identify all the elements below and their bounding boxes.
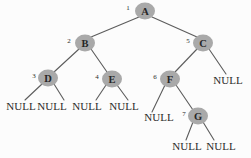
null-d-left: NULL [6,100,36,112]
null-e-right: NULL [109,100,139,112]
tree-edge-b-to-e [91,49,107,72]
node-index-c: 5 [186,37,190,45]
tree-edge-b-to-d [54,49,79,72]
tree-edge-d-to-null-d-left [25,84,42,100]
node-label-b: B [81,38,88,49]
node-index-b: 2 [67,37,71,45]
null-leaves-group: NULLNULLNULLNULLNULLNULLNULLNULL [6,74,243,152]
null-f-left: NULL [144,111,174,123]
node-label-e: E [108,74,115,85]
null-g-left: NULL [172,140,202,152]
node-index-a: 1 [126,4,130,12]
null-g-right: NULL [206,140,236,152]
node-label-a: A [141,6,149,17]
tree-edge-a-to-b [91,17,139,37]
null-e-left: NULL [72,100,102,112]
tree-edge-e-to-null-e-left [96,85,106,100]
node-index-e: 4 [95,73,99,81]
node-index-d: 3 [32,72,36,80]
tree-edge-f-to-g [176,85,193,110]
tree-edge-f-to-null-f-left [152,85,165,112]
null-d-right: NULL [37,100,67,112]
tree-edge-g-to-null-g-left [186,122,193,140]
tree-edge-a-to-c [152,17,197,37]
tree-edge-c-to-f [175,49,197,72]
node-label-g: G [194,111,202,122]
node-label-f: F [167,74,173,85]
node-index-f: 6 [153,73,157,81]
tree-svg-canvas: 1A2B5C3D4E6F7G NULLNULLNULLNULLNULLNULLN… [0,0,251,158]
tree-edge-g-to-null-g-right [203,122,214,140]
tree-edge-c-to-null-c-right [209,49,226,74]
binary-tree-diagram: 1A2B5C3D4E6F7G NULLNULLNULLNULLNULLNULLN… [0,0,251,158]
node-label-c: C [199,38,207,49]
tree-edge-e-to-null-e-right [117,85,128,100]
null-c-right: NULL [213,74,243,86]
tree-edge-d-to-null-d-right [54,84,64,100]
node-index-g: 7 [182,110,186,118]
node-label-d: D [44,73,52,84]
